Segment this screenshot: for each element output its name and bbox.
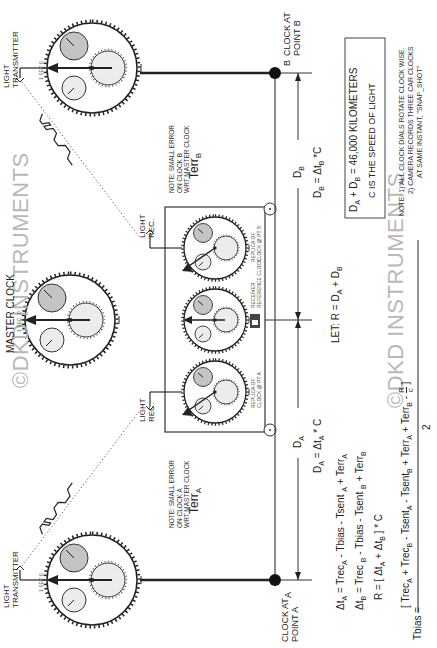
distance-da-label: DA	[292, 436, 305, 448]
point-a-label: A	[283, 592, 293, 598]
let-formula: LET: R = DA + DB	[330, 266, 343, 343]
equation-tbias-lhs: Tbias =	[412, 607, 423, 640]
clock-b-dial	[45, 21, 141, 115]
point-b-label: B	[282, 60, 292, 66]
info-box-line1: DA + DB = 46,000 KILOMETERS	[348, 68, 361, 212]
distance-db-label: DB	[292, 166, 305, 178]
clock-a-dial	[45, 533, 141, 627]
clock-b-title: CLOCK AT POINT B	[282, 12, 302, 56]
receiver-left-label: LIGHT REC.	[138, 398, 156, 422]
r-over-c-fraction: Rc	[398, 387, 415, 393]
distance-da-equation: DA = ΔtA * C	[312, 419, 325, 473]
terr-b: TerrB	[191, 125, 203, 179]
equation-tbias-numerator: [ TrecA + TrecB - TsentA - TsentB + Terr…	[398, 382, 415, 608]
receiver-clock-a-caption: REPLICA OF CLOCK @ PT A	[250, 372, 262, 408]
master-clock-sec-label: 1 SEC	[16, 318, 22, 332]
distance-db-equation: DB = ΔtB *C	[312, 147, 325, 198]
note-clock-b: NOTE: SMALL ERROR ON CLOCK B WRT MASTER …	[168, 125, 202, 193]
bottom-notes: NOTE: 1) ALL CLOCK DIALS ROTATE CLOCK WI…	[397, 46, 424, 216]
terr-a: TerrA	[191, 460, 203, 514]
equation-tbias-denominator: 2	[421, 424, 432, 430]
clock-b-sec-label: 1 SEC	[38, 66, 44, 80]
transmitter-a-label: LIGHT TRANSMITTER	[2, 551, 20, 608]
clock-a-zero-label: 0	[38, 573, 44, 576]
diagram-stage: ©DKD INSTRUMENTS ©DKD INSTRUMENTS MASTER…	[0, 0, 437, 648]
receiver-reference-caption: RECEIVER REFERENCE CLOCK	[250, 259, 262, 308]
equation-delta-tb: ΔtB = Trec B - Tbias - Tsent B + TerrB	[354, 451, 367, 610]
clock-a-title: CLOCK AT POINT A	[280, 598, 300, 642]
master-clock-zero-label: 0	[16, 311, 22, 314]
note-clock-a: NOTE: SMALL ERROR ON CLOCK A WRT MASTER …	[168, 460, 202, 528]
clock-b-zero-label: 0	[38, 61, 44, 64]
equation-delta-ta: ΔtA = TrecA - Tbias - Tsent A + TerrA	[335, 454, 348, 610]
master-clock-dial	[23, 273, 119, 367]
master-clock-title: MASTER CLOCK	[6, 274, 16, 353]
info-box-line2: C IS THE SPEED OF LIGHT	[367, 83, 377, 198]
clock-a-sec-label: 1 SEC	[38, 578, 44, 592]
equation-r: R = [ ΔtA + ΔtB ] * C	[373, 514, 386, 600]
receiver-right-label: LIGHT REC.	[138, 214, 156, 238]
transmitter-b-label: LIGHT TRANSMITTER	[2, 31, 20, 88]
receiver-clock-b-caption: REPLICA OF CLOCK @ PT B	[250, 226, 262, 262]
